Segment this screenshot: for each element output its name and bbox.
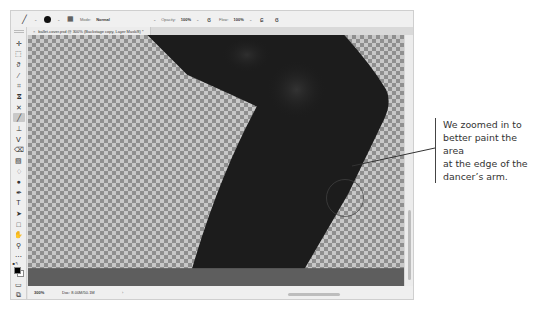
brush-preset-chevron-icon[interactable]: ⌄ (57, 17, 60, 22)
status-bar: 300% Doc: 8.00M/50.1M › (28, 286, 413, 299)
flow-chevron-icon[interactable]: ⌄ (249, 17, 252, 22)
airbrush-icon[interactable]: ɕ (257, 14, 267, 24)
stamp-tool-icon[interactable]: ⊥ (13, 124, 25, 133)
quick-mask-icon[interactable]: ▭ (13, 280, 25, 289)
flow-field[interactable]: 100% (234, 17, 244, 22)
brush-settings-icon[interactable]: ▦ (65, 14, 75, 24)
quick-select-tool-icon[interactable]: ⁄ (13, 71, 25, 80)
healing-tool-icon[interactable]: ✕ (13, 103, 25, 112)
foreground-color-swatch[interactable] (14, 267, 21, 274)
document-tab-bar: × ballet-cover.psd @ 300% (Backstage cop… (27, 27, 413, 35)
chevron-down-icon: ⌄ (153, 17, 156, 22)
lasso-tool-icon[interactable]: ϑ (13, 60, 25, 69)
tools-panel: ✛ ⬚ ϑ ⁄ ⌗ ⴵ ✕ ╱ ⊥ ⴸ ⌫ ▧ ♢ ● ✒ T ➤ □ ✋ ⚲ … (11, 27, 27, 299)
zoom-tool-icon[interactable]: ⚲ (13, 241, 25, 250)
eraser-tool-icon[interactable]: ⌫ (13, 145, 25, 154)
vertical-scroll-thumb[interactable] (408, 210, 411, 280)
more-tools-icon[interactable]: ⋯ (13, 252, 25, 261)
doc-size-info: Doc: 8.00M/50.1M (62, 290, 122, 295)
dancer-arm-image (28, 35, 404, 286)
gradient-tool-icon[interactable]: ▧ (13, 156, 25, 165)
hand-tool-icon[interactable]: ✋ (13, 231, 25, 240)
path-select-tool-icon[interactable]: ➤ (13, 209, 25, 218)
brush-cursor (326, 179, 364, 217)
callout-caption: We zoomed in to better paint the area at… (435, 118, 533, 183)
pressure-opacity-icon[interactable]: ɞ (204, 14, 214, 24)
mode-select[interactable]: Normal ⌄ (96, 17, 156, 22)
opacity-field[interactable]: 100% (181, 17, 191, 22)
dodge-tool-icon[interactable]: ● (13, 177, 25, 186)
color-swatches: ■↰ (13, 264, 25, 277)
zoom-level[interactable]: 300% (34, 290, 62, 295)
panel-grip[interactable] (14, 30, 24, 33)
opacity-chevron-icon[interactable]: ⌄ (196, 17, 199, 22)
vertical-scrollbar[interactable] (404, 35, 413, 286)
brush-tool-icon[interactable]: ╱ (13, 113, 25, 122)
type-tool-icon[interactable]: T (13, 199, 25, 208)
pen-tool-icon[interactable]: ✒ (13, 188, 25, 197)
tool-preset-chevron-icon[interactable]: ⌄ (34, 17, 37, 22)
default-colors-icon[interactable]: ■↰ (13, 261, 18, 266)
blur-tool-icon[interactable]: ♢ (13, 167, 25, 176)
document-tab[interactable]: × ballet-cover.psd @ 300% (Backstage cop… (27, 27, 151, 35)
options-bar: ╱ ⌄ ⌄ ▦ Mode: Normal ⌄ Opacity: 100% ⌄ ɞ… (11, 11, 413, 27)
opacity-label: Opacity: (161, 17, 176, 22)
mode-value: Normal (96, 17, 110, 22)
status-menu-arrow-icon[interactable]: › (122, 290, 242, 295)
pressure-size-icon[interactable]: ɞ (272, 14, 282, 24)
move-tool-icon[interactable]: ✛ (13, 39, 25, 48)
flow-label: Flow: (219, 17, 229, 22)
document-canvas[interactable] (28, 35, 404, 286)
document-tab-title: ballet-cover.psd @ 300% (Backstage copy,… (38, 29, 143, 34)
crop-tool-icon[interactable]: ⌗ (13, 82, 25, 91)
marquee-tool-icon[interactable]: ⬚ (13, 50, 25, 59)
brush-icon[interactable]: ╱ (19, 14, 29, 24)
mode-label: Mode: (80, 17, 91, 22)
shape-tool-icon[interactable]: □ (13, 220, 25, 229)
screen-mode-icon[interactable]: ⧉ (13, 291, 25, 300)
brush-preset-icon[interactable] (42, 14, 52, 24)
close-icon[interactable]: × (33, 29, 35, 34)
horizontal-scroll-thumb[interactable] (288, 293, 340, 296)
history-brush-tool-icon[interactable]: ⴸ (13, 135, 25, 144)
eyedropper-tool-icon[interactable]: ⴵ (13, 92, 25, 101)
photoshop-window: ╱ ⌄ ⌄ ▦ Mode: Normal ⌄ Opacity: 100% ⌄ ɞ… (10, 10, 414, 300)
